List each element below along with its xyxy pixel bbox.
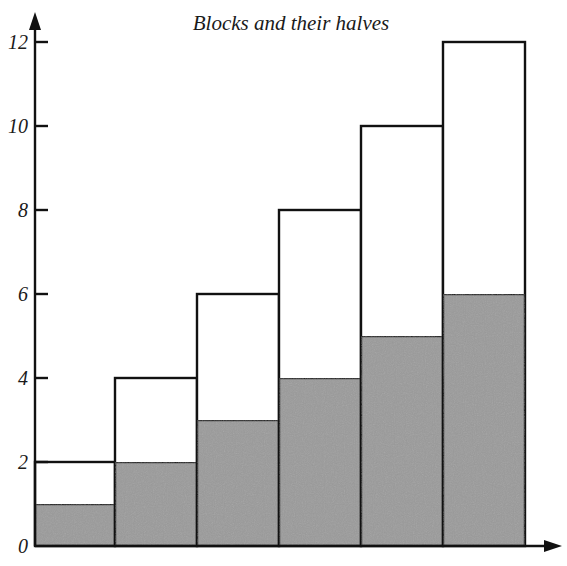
y-tick-label: 12 [8, 31, 28, 53]
half-bar [279, 378, 361, 546]
half-bar [115, 462, 197, 546]
x-axis-arrow-icon [544, 540, 562, 552]
bars-group [35, 42, 525, 546]
y-axis-arrow-icon [29, 12, 41, 30]
y-tick-label: 10 [8, 115, 28, 137]
half-bar [361, 336, 443, 546]
y-tick-label: 8 [18, 199, 28, 221]
half-bar [443, 294, 525, 546]
blocks-halves-chart: Blocks and their halves 024681012 [0, 0, 567, 566]
y-tick-label: 6 [18, 283, 28, 305]
y-tick-label: 0 [18, 535, 28, 557]
chart-title: Blocks and their halves [193, 11, 390, 35]
half-bar [35, 504, 115, 546]
y-tick-label: 4 [18, 367, 28, 389]
half-bar [197, 420, 279, 546]
y-tick-label: 2 [18, 451, 28, 473]
